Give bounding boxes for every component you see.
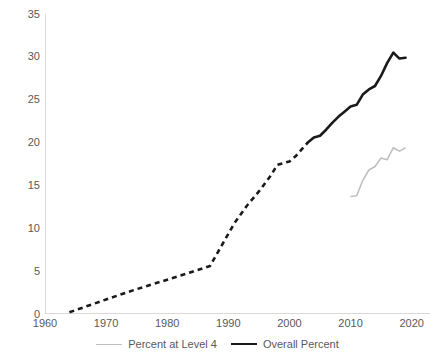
legend-item-percent-at-level-4: Percent at Level 4 [96,338,217,350]
y-tick-label: 30 [0,51,40,62]
series-line-overall-percent-solid [308,53,406,143]
y-tick-label: 5 [0,266,40,277]
plot-area [45,14,430,314]
x-tick-label: 2010 [338,317,362,330]
x-tick-label: 1990 [216,317,240,330]
line-chart: 05101520253035 1960197019801990200020102… [0,0,435,362]
series-line-overall-percent-dashed [69,143,307,313]
y-tick-label: 35 [0,9,40,20]
y-tick-label: 20 [0,137,40,148]
x-tick-label: 2000 [277,317,301,330]
x-tick-label: 1970 [94,317,118,330]
x-tick-label: 1960 [33,317,57,330]
legend-item-overall-percent: Overall Percent [231,338,339,350]
y-tick-label: 10 [0,223,40,234]
legend-line-icon-gray [96,344,122,345]
x-tick-label: 1980 [155,317,179,330]
x-axis-tick-labels: 1960197019801990200020102020 [0,317,435,333]
series-line-percent-at-level-4 [351,148,406,197]
legend-label: Overall Percent [263,338,339,350]
legend-label: Percent at Level 4 [128,338,217,350]
legend-line-icon-black [231,343,257,345]
y-tick-label: 15 [0,180,40,191]
y-axis-tick-labels: 05101520253035 [0,0,40,362]
chart-legend: Percent at Level 4 Overall Percent [0,338,435,350]
x-tick-label: 2020 [399,317,423,330]
series-canvas [45,14,430,314]
y-tick-label: 25 [0,94,40,105]
